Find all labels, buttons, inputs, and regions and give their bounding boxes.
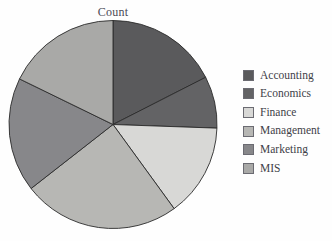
legend-item-management[interactable]: Management [243,122,332,141]
legend-item-label: Accounting [260,70,314,82]
legend-item-label: Finance [260,107,296,119]
legend-item-marketing[interactable]: Marketing [243,140,332,159]
chart-legend: AccountingEconomicsFinanceManagementMark… [243,66,332,178]
legend-swatch-icon [243,88,254,99]
legend-item-label: Management [260,125,320,137]
legend-item-label: Marketing [260,144,308,156]
legend-item-economics[interactable]: Economics [243,85,332,104]
legend-item-label: MIS [260,163,280,175]
legend-swatch-icon [243,126,254,137]
pie-chart-figure: Count AccountingEconomicsFinanceManageme… [0,0,332,241]
legend-swatch-icon [243,107,254,118]
pie-plot-area [0,0,232,241]
legend-item-label: Economics [260,88,311,100]
legend-item-mis[interactable]: MIS [243,159,332,178]
legend-item-finance[interactable]: Finance [243,103,332,122]
legend-swatch-icon [243,70,254,81]
legend-swatch-icon [243,163,254,174]
legend-item-accounting[interactable]: Accounting [243,66,332,85]
pie-slices-group [9,21,217,229]
legend-swatch-icon [243,144,254,155]
pie-svg [0,0,232,241]
